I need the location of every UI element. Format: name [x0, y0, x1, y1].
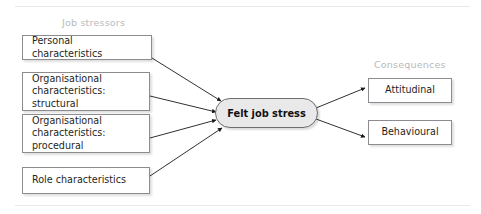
node-role-characteristics[interactable]: Role characteristics — [22, 167, 150, 194]
node-organisational-structural-line3: structural — [32, 98, 106, 110]
node-felt-job-stress[interactable]: Felt job stress — [215, 98, 318, 128]
edge-org-structural-to-center — [150, 96, 216, 112]
node-organisational-structural-line2: characteristics: — [32, 85, 106, 97]
node-personal-characteristics[interactable]: Personal characteristics — [22, 35, 152, 60]
bottom-divider — [15, 205, 470, 206]
node-organisational-procedural-text: Organisational characteristics: procedur… — [32, 115, 106, 152]
node-organisational-structural-text: Organisational characteristics: structur… — [32, 73, 106, 110]
edge-personal-to-center — [152, 58, 221, 101]
node-personal-characteristics-label: Personal characteristics — [32, 35, 145, 59]
diagram-canvas: Job stressors Consequences Personal char… — [0, 0, 481, 214]
node-organisational-procedural-line1: Organisational — [32, 115, 106, 127]
node-behavioural[interactable]: Behavioural — [368, 120, 452, 145]
node-organisational-procedural-line2: characteristics: — [32, 127, 106, 139]
node-attitudinal[interactable]: Attitudinal — [368, 78, 452, 103]
edge-role-to-center — [150, 128, 222, 176]
edge-org-procedural-to-center — [150, 120, 216, 138]
edge-center-to-attitudinal — [316, 88, 365, 108]
group-label-job-stressors: Job stressors — [62, 17, 125, 28]
edge-center-to-behavioural — [316, 119, 365, 137]
top-divider — [15, 6, 470, 7]
group-label-consequences: Consequences — [374, 59, 446, 70]
node-felt-job-stress-label: Felt job stress — [227, 108, 306, 119]
node-organisational-procedural-line3: procedural — [32, 140, 106, 152]
node-attitudinal-label: Attitudinal — [385, 84, 435, 96]
node-organisational-procedural[interactable]: Organisational characteristics: procedur… — [22, 114, 150, 153]
node-organisational-structural-line1: Organisational — [32, 73, 106, 85]
node-organisational-structural[interactable]: Organisational characteristics: structur… — [22, 72, 150, 111]
node-role-characteristics-label: Role characteristics — [32, 174, 126, 186]
node-behavioural-label: Behavioural — [381, 126, 438, 138]
